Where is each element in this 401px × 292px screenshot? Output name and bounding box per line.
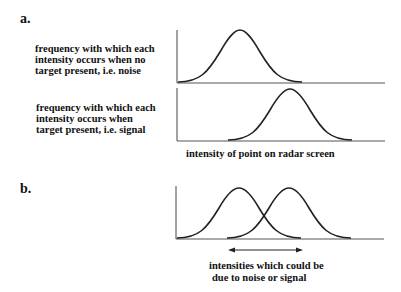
overlap-plot [176,186,384,253]
signal-curve [228,89,352,140]
noise-distribution-plot [177,30,385,83]
overlap-range-arrow [228,248,303,253]
overlap-noise-curve [177,188,301,238]
overlap-signal-curve [227,188,351,238]
diagram-graphics [0,0,401,292]
signal-distribution-plot [177,88,385,141]
noise-curve [178,30,302,82]
